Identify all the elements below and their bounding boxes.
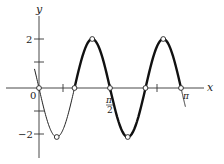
marked-point	[179, 86, 184, 91]
y-tick-label-neg2: −2	[18, 129, 33, 140]
curve-thin-segment	[34, 69, 74, 137]
marked-point	[125, 135, 130, 140]
marked-point	[161, 37, 166, 42]
marked-point	[54, 135, 59, 140]
y-axis-label: y	[35, 3, 43, 16]
x-tick-label-pi-2-denominator: 2	[107, 105, 113, 115]
marked-point	[143, 86, 148, 91]
function-plot: y x 0 2 −2 π 2 π	[0, 0, 224, 164]
marked-point	[72, 86, 77, 91]
x-tick-label-pi-2-numerator: π	[105, 95, 113, 105]
x-axis-label: x	[207, 81, 214, 94]
marked-point	[108, 86, 113, 91]
x-tick-label-pi: π	[182, 91, 190, 101]
origin-label: 0	[30, 90, 36, 101]
y-tick-label-2: 2	[26, 34, 32, 45]
marked-point	[90, 37, 95, 42]
marked-point	[37, 86, 42, 91]
